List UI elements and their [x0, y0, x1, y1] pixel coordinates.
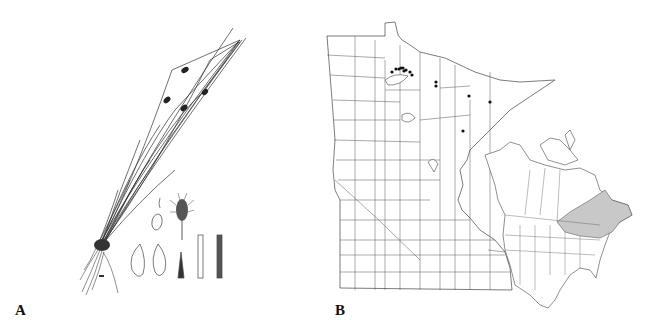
spikelet-detail	[170, 193, 194, 240]
culms	[97, 28, 246, 247]
scale-left	[131, 244, 144, 276]
panel-a-plant-illustration: A	[0, 0, 325, 335]
scale-right	[153, 244, 166, 276]
plant-drawing	[0, 0, 325, 335]
panel-label-a: A	[15, 302, 26, 319]
maps	[325, 0, 651, 335]
culm-section-sheath	[198, 235, 203, 278]
panel-b-distribution-maps: B	[325, 0, 651, 335]
panel-label-b: B	[335, 302, 345, 319]
plant-base	[80, 239, 118, 295]
culm-section	[217, 235, 222, 278]
scale-narrow	[178, 252, 184, 278]
perigynium-small	[151, 213, 164, 230]
